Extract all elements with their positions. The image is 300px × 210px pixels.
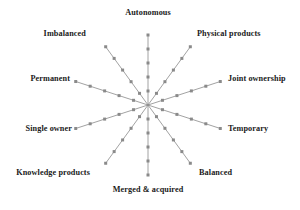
axis-tick-marker xyxy=(147,76,150,79)
axis-tick-marker xyxy=(163,127,166,130)
axis-tick-marker xyxy=(104,162,107,165)
axis-label-temporary: Temporary xyxy=(228,124,268,134)
axis-tick-marker xyxy=(121,138,124,141)
axis-label-permanent: Permanent xyxy=(30,74,70,84)
axis-tick-marker xyxy=(104,45,107,48)
axis-tick-marker xyxy=(147,132,150,135)
axis-label-imbalanced: Imbalanced xyxy=(44,29,86,39)
axis-line xyxy=(148,82,220,105)
axis-tick-marker xyxy=(204,122,207,125)
axis-tick-marker xyxy=(132,108,135,111)
axis-tick-marker xyxy=(89,85,92,88)
axis-tick-marker xyxy=(147,48,150,51)
axis-tick-marker xyxy=(121,69,124,72)
axis-tick-marker xyxy=(147,62,150,65)
axis-line xyxy=(106,105,148,163)
axis-label-joint-ownership: Joint ownership xyxy=(228,74,286,84)
axis-tick-marker xyxy=(132,99,135,102)
axis-tick-marker xyxy=(155,92,158,95)
axis-label-single-owner: Single owner xyxy=(26,124,72,134)
axis-tick-marker xyxy=(161,108,164,111)
axis-tick-marker xyxy=(147,118,150,121)
axis-tick-marker xyxy=(118,94,121,97)
axis-line xyxy=(148,105,190,163)
axis-tick-marker xyxy=(172,138,175,141)
axis-tick-marker xyxy=(103,118,106,121)
axis-tick-marker xyxy=(113,150,116,153)
axis-label-knowledge-products: Knowledge products xyxy=(16,168,90,178)
axis-tick-marker xyxy=(161,99,164,102)
axis-tick-marker xyxy=(163,80,166,83)
axis-tick-marker xyxy=(147,90,150,93)
axis-tick-marker xyxy=(130,80,133,83)
axis-label-physical-products: Physical products xyxy=(197,29,261,39)
axis-tick-marker xyxy=(189,162,192,165)
axis-tick-marker xyxy=(175,113,178,116)
axis-line xyxy=(76,82,148,105)
axis-tick-marker xyxy=(130,127,133,130)
axis-line xyxy=(76,105,148,128)
axis-tick-marker xyxy=(147,174,150,177)
axis-tick-marker xyxy=(103,89,106,92)
axis-label-autonomous: Autonomous xyxy=(125,8,171,18)
axis-tick-marker xyxy=(175,94,178,97)
axis-tick-marker xyxy=(113,57,116,60)
axis-line xyxy=(148,105,220,128)
axis-tick-marker xyxy=(147,34,150,37)
axis-tick-marker xyxy=(190,89,193,92)
axis-tick-marker xyxy=(89,122,92,125)
axis-tick-marker xyxy=(204,85,207,88)
axis-line xyxy=(106,47,148,105)
axis-tick-marker xyxy=(219,127,222,130)
axis-tick-marker xyxy=(190,118,193,121)
axis-tick-marker xyxy=(172,69,175,72)
axis-tick-marker xyxy=(155,115,158,118)
axis-tick-marker xyxy=(74,80,77,83)
axis-tick-marker xyxy=(180,150,183,153)
axis-tick-marker xyxy=(180,57,183,60)
axis-tick-marker xyxy=(147,146,150,149)
axis-line xyxy=(148,47,190,105)
axes-group xyxy=(76,35,221,175)
axis-tick-marker xyxy=(189,45,192,48)
axis-tick-marker xyxy=(219,80,222,83)
radial-diagram-canvas: AutonomousPhysical productsJoint ownersh… xyxy=(0,0,300,210)
axis-tick-marker xyxy=(74,127,77,130)
axis-tick-marker xyxy=(138,115,141,118)
axis-label-balanced: Balanced xyxy=(199,168,232,178)
axis-tick-marker xyxy=(138,92,141,95)
axis-label-merged-acquired: Merged & acquired xyxy=(113,185,184,195)
axis-tick-marker xyxy=(147,160,150,163)
axis-tick-marker xyxy=(118,113,121,116)
